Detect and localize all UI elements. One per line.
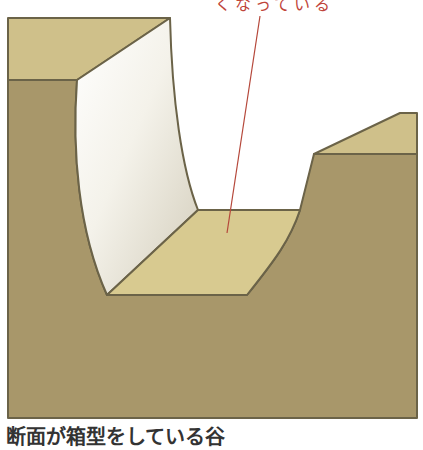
right-plateau <box>314 113 417 154</box>
annotation-label: くなっている <box>215 0 334 15</box>
annotation-leader-line <box>227 16 260 233</box>
figure-caption: 断面が箱型をしている谷 <box>6 421 225 450</box>
